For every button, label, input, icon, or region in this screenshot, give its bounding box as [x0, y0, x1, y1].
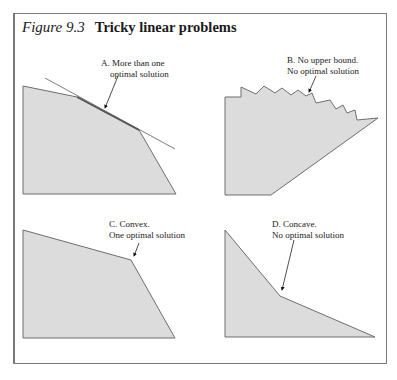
label-d-line1: D. Concave. [272, 219, 317, 229]
label-a-line2: optimal solution [110, 69, 169, 79]
label-c-line2: One optimal solution [109, 230, 185, 240]
panel-a: A. More than one optimal solution [23, 58, 176, 194]
label-b-line2: No optimal solution [287, 66, 360, 76]
diagram-canvas: A. More than one optimal solution B. No … [0, 0, 397, 380]
panel-c: C. Convex. One optimal solution [23, 219, 185, 338]
panel-b: B. No upper bound. No optimal solution [225, 55, 378, 195]
label-c-line1: C. Convex. [109, 219, 150, 229]
feasible-region-c [23, 230, 175, 338]
arrow-a [105, 76, 118, 108]
feasible-region-d [225, 230, 375, 337]
label-a-line1: A. More than one [101, 58, 164, 68]
label-b-line1: B. No upper bound. [287, 55, 358, 65]
panel-d: D. Concave. No optimal solution [225, 219, 375, 337]
feasible-region-b [225, 86, 378, 195]
arrow-d [282, 240, 294, 290]
feasible-region-a [23, 86, 176, 194]
arrow-c [134, 243, 139, 256]
label-d-line2: No optimal solution [272, 230, 345, 240]
arrow-b [309, 76, 316, 92]
